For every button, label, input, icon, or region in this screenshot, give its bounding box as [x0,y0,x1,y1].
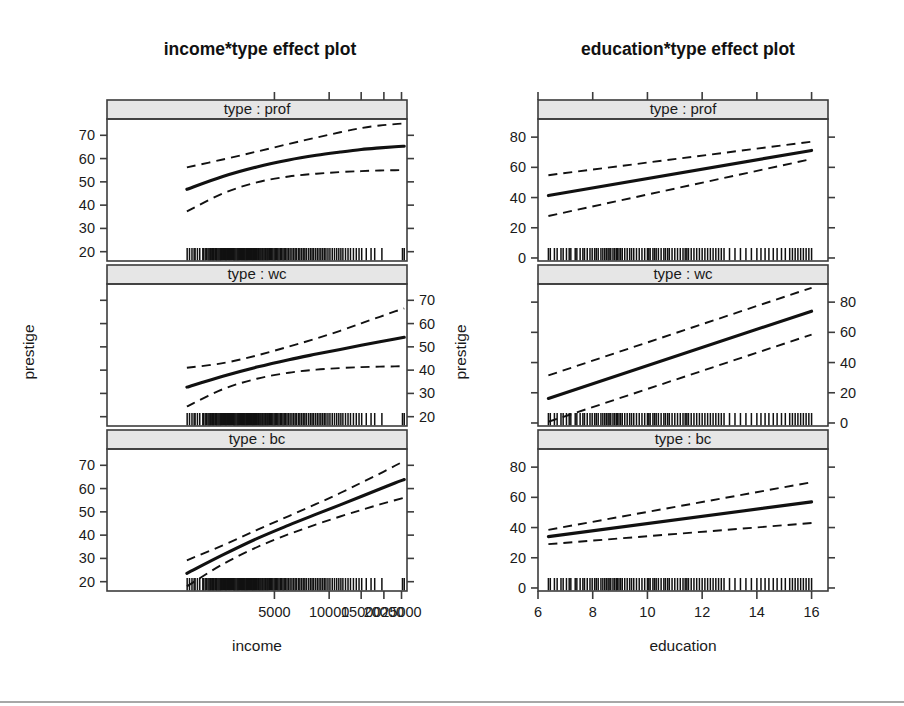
confidence-upper-income-effect-2 [187,461,404,560]
fit-line-education-effect-1 [548,311,811,398]
y-tick-label-income-effect-2-2: 40 [79,527,95,543]
y-tick-label-education-effect-0-4: 80 [510,129,526,145]
plot-block-education-effect: education*type effect ploteducationprest… [452,39,856,654]
rug-income-effect-0 [187,248,404,260]
y-tick-label-income-effect-2-0: 20 [79,574,95,590]
y-tick-label-income-effect-2-4: 60 [79,481,95,497]
confidence-lower-education-effect-2 [548,523,811,544]
confidence-lower-education-effect-1 [548,335,811,422]
x-tick-label-education-effect-5: 16 [804,604,820,620]
facet-education-effect-1: type : wc020406080 [531,265,856,431]
y-axis-label-education-effect: prestige [452,324,469,379]
panel-frame-income-effect-0 [107,119,407,261]
rug-income-effect-1 [187,413,404,425]
facet-income-effect-1: type : wc203040506070 [100,265,435,426]
y-tick-label-education-effect-1-4: 80 [840,294,856,310]
facet-income-effect-2: type : bc2030405060705000100001500020000… [79,430,422,620]
y-tick-label-education-effect-1-3: 60 [840,324,856,340]
rug-education-effect-0 [548,248,811,260]
fit-line-income-effect-2 [187,480,404,574]
y-tick-label-education-effect-0-1: 20 [510,220,526,236]
y-tick-label-income-effect-0-0: 20 [79,244,95,260]
plot-block-income-effect: income*type effect plotincomeprestigetyp… [20,39,435,654]
y-tick-label-income-effect-0-4: 60 [79,151,95,167]
confidence-upper-income-effect-0 [187,123,404,167]
y-tick-label-education-effect-2-1: 20 [510,550,526,566]
y-tick-label-income-effect-2-1: 30 [79,550,95,566]
y-tick-label-education-effect-0-0: 0 [518,250,526,266]
x-tick-label-education-effect-1: 8 [589,604,597,620]
rug-education-effect-1 [548,413,811,425]
y-tick-label-income-effect-0-3: 50 [79,174,95,190]
y-tick-label-education-effect-2-0: 0 [518,580,526,596]
x-tick-label-education-effect-4: 14 [749,604,765,620]
y-tick-label-education-effect-0-2: 40 [510,190,526,206]
fit-line-income-effect-0 [187,146,404,189]
y-tick-label-education-effect-2-4: 80 [510,459,526,475]
x-tick-label-education-effect-3: 12 [694,604,710,620]
strip-label-education-effect-2: type : bc [655,430,712,447]
facet-income-effect-0: type : prof203040506070 [79,92,414,261]
strip-label-income-effect-1: type : wc [227,265,287,282]
confidence-lower-income-effect-1 [187,366,404,406]
y-tick-label-income-effect-1-3: 50 [419,339,435,355]
x-tick-label-income-effect-4: 25000 [381,604,421,620]
y-tick-label-income-effect-1-5: 70 [419,292,435,308]
figure-canvas: income*type effect plotincomeprestigetyp… [0,0,904,706]
y-tick-label-education-effect-1-0: 0 [840,415,848,431]
fit-line-education-effect-0 [548,150,811,195]
strip-label-income-effect-0: type : prof [224,100,292,117]
x-axis-label-education-effect: education [649,637,716,654]
y-tick-label-income-effect-0-5: 70 [79,127,95,143]
y-tick-label-education-effect-1-2: 40 [840,355,856,371]
y-tick-label-income-effect-1-0: 20 [419,409,435,425]
strip-label-education-effect-0: type : prof [650,100,718,117]
fit-line-education-effect-2 [548,502,811,537]
rug-income-effect-2 [187,578,404,590]
plot-title-education-effect: education*type effect plot [581,39,795,59]
x-axis-label-income-effect: income [232,637,282,654]
y-tick-label-income-effect-0-1: 30 [79,220,95,236]
facet-education-effect-2: type : bc0204060806810121416 [510,430,835,620]
y-tick-label-income-effect-1-2: 40 [419,362,435,378]
facet-education-effect-0: type : prof020406080 [510,92,835,266]
y-tick-label-education-effect-2-3: 60 [510,489,526,505]
y-tick-label-income-effect-1-1: 30 [419,385,435,401]
panel-frame-income-effect-2 [107,449,407,591]
y-tick-label-income-effect-1-4: 60 [419,316,435,332]
strip-label-income-effect-2: type : bc [229,430,286,447]
strip-label-education-effect-1: type : wc [653,265,713,282]
confidence-upper-education-effect-1 [548,288,811,376]
y-tick-label-education-effect-1-1: 20 [840,385,856,401]
y-axis-label-income-effect: prestige [20,324,37,379]
x-tick-label-education-effect-0: 6 [534,604,542,620]
rug-education-effect-2 [548,578,811,590]
effect-plot-figure: income*type effect plotincomeprestigetyp… [0,0,904,706]
x-tick-label-education-effect-2: 10 [639,604,655,620]
y-tick-label-income-effect-2-3: 50 [79,504,95,520]
confidence-lower-income-effect-2 [187,498,404,587]
y-tick-label-income-effect-0-2: 40 [79,197,95,213]
x-tick-label-income-effect-0: 5000 [258,604,290,620]
panel-frame-income-effect-1 [107,284,407,426]
y-tick-label-education-effect-2-2: 40 [510,520,526,536]
y-tick-label-education-effect-0-3: 60 [510,159,526,175]
plot-title-income-effect: income*type effect plot [164,39,357,59]
y-tick-label-income-effect-2-5: 70 [79,457,95,473]
